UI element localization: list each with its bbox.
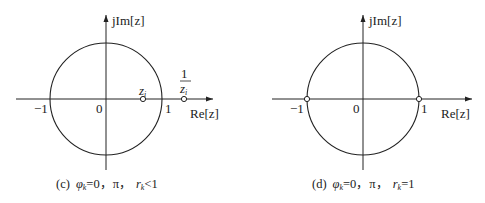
svg-text:1: 1 <box>181 66 188 81</box>
real-axis-label: Re[z] <box>441 106 470 121</box>
pole-inv-z-i <box>181 96 186 101</box>
pole-zero-diagrams: jIm[z] Re[z] −1 0 1 zi 1 zi (c)φk=0，π，rk… <box>0 0 485 203</box>
tick-one: 1 <box>421 101 428 116</box>
panel-c: jIm[z] Re[z] −1 0 1 zi 1 zi (c)φk=0，π，rk… <box>16 13 219 192</box>
tick-one: 1 <box>165 101 172 116</box>
caption-c: (c)φk=0，π，rk<1 <box>56 177 158 192</box>
caption-d: (d)φk=0，π，rk=1 <box>312 177 414 192</box>
tick-neg-one: −1 <box>34 101 48 116</box>
svg-text:zi: zi <box>179 81 187 97</box>
label-inv-z-i: 1 zi <box>179 66 191 97</box>
real-axis-label: Re[z] <box>190 106 219 121</box>
tick-zero: 0 <box>96 101 103 116</box>
panel-d: jIm[z] Re[z] −1 0 1 (d)φk=0，π，rk=1 <box>272 13 472 192</box>
imag-axis-label: jIm[z] <box>368 13 401 28</box>
pole-neg-one <box>304 96 309 101</box>
tick-neg-one: −1 <box>290 101 304 116</box>
tick-zero: 0 <box>353 101 360 116</box>
label-z-i: zi <box>138 83 146 99</box>
imag-axis-label: jIm[z] <box>111 13 144 28</box>
svg-text:zi: zi <box>138 83 146 99</box>
